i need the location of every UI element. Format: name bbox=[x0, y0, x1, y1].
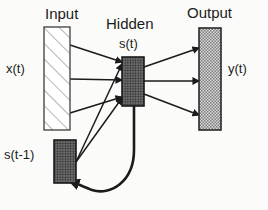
hidden-state-label: s(t) bbox=[119, 37, 138, 50]
arrow-hidden-output-top bbox=[144, 48, 199, 67]
output-signal-label: y(t) bbox=[228, 62, 247, 75]
input-layer-label: Input bbox=[45, 6, 78, 21]
arrow-input-hidden-bot bbox=[70, 97, 122, 113]
output-block bbox=[199, 28, 221, 130]
network-diagram: Input Hidden Output s(t) x(t) y(t) s(t-1… bbox=[0, 0, 268, 210]
node-context bbox=[54, 140, 76, 183]
node-output bbox=[199, 28, 221, 130]
context-state-label: s(t-1) bbox=[4, 148, 34, 161]
hidden-block bbox=[122, 57, 144, 106]
input-signal-label: x(t) bbox=[6, 62, 25, 75]
node-input bbox=[44, 27, 70, 130]
input-block bbox=[44, 27, 70, 130]
arrow-hidden-output-bot bbox=[144, 94, 199, 115]
connections-hidden-to-output bbox=[144, 48, 199, 115]
feedback-curve bbox=[70, 106, 134, 191]
arrow-context-hidden-lower bbox=[76, 98, 122, 162]
context-block bbox=[54, 140, 76, 183]
hidden-layer-label: Hidden bbox=[106, 16, 154, 31]
connection-hidden-to-context-feedback bbox=[70, 106, 134, 191]
arrow-input-hidden-top bbox=[70, 45, 122, 62]
node-hidden bbox=[122, 57, 144, 106]
output-layer-label: Output bbox=[187, 5, 232, 20]
